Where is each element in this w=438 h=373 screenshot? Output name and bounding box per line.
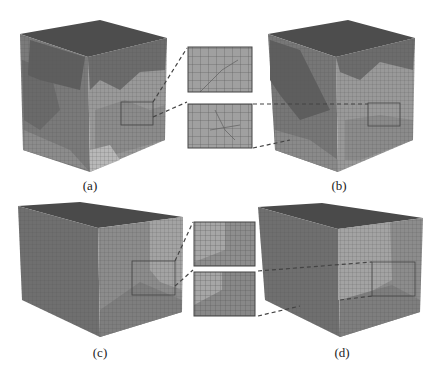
figure-canvas (0, 0, 438, 373)
panel-label-b: (b) (331, 178, 346, 194)
panel-d-box (258, 203, 423, 337)
inset-top-upper (188, 47, 252, 92)
panel-c-box (18, 202, 183, 337)
inset-bottom-upper (194, 222, 255, 266)
inset-top-lower (188, 104, 252, 148)
panel-label-d: (d) (334, 345, 349, 361)
inset-bottom-lower (194, 272, 255, 316)
panel-label-a: (a) (83, 178, 97, 194)
panel-b-cube (268, 20, 415, 172)
panel-a-cube (20, 20, 167, 172)
panel-label-c: (c) (93, 345, 107, 361)
